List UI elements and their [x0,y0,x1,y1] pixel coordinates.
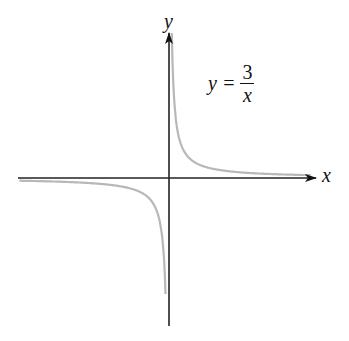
y-axis-label: y [164,10,173,33]
chart: y x y = 3 x [0,0,349,341]
equation-fraction: 3 x [240,62,254,105]
equation-denominator: x [243,84,252,105]
equation-lhs: y = [208,72,235,95]
x-axis-label: x [322,164,331,187]
equation-label: y = 3 x [208,62,254,105]
equation-numerator: 3 [240,62,254,84]
plot-area [0,0,349,341]
curve-negative-branch [19,181,165,294]
